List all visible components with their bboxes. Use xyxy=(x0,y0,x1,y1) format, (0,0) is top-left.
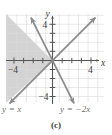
x-axis-label: x xyxy=(100,58,106,68)
figure-caption: (c) xyxy=(0,120,112,130)
line-label-y-equals-x: y = x xyxy=(2,104,22,114)
coordinate-plane: y x −4 4 4 −4 xyxy=(0,0,112,135)
y-axis-label: y xyxy=(45,9,51,19)
y-tick-label-4: 4 xyxy=(43,20,48,30)
x-tick-label-negative-4: −4 xyxy=(8,65,18,75)
graph-figure: y x −4 4 4 −4 y = x y = −2x (c) xyxy=(0,0,112,135)
x-tick-label-4: 4 xyxy=(88,65,93,75)
y-tick-label-negative-4: −4 xyxy=(39,92,49,102)
line-label-y-equals-negative-2x: y = −2x xyxy=(60,104,91,114)
